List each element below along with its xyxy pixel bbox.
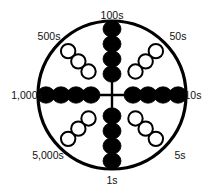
bead-bottom-4 (103, 108, 121, 124)
bead-top-3 (103, 51, 121, 67)
axis-label-lower-right: 5s (174, 149, 185, 161)
bead-top-4 (103, 66, 121, 82)
bead-top-1 (103, 21, 121, 37)
bead-upper-right-3 (128, 64, 142, 78)
axis-label-upper-right: 50s (170, 30, 187, 42)
bead-lower-left-3 (81, 111, 95, 125)
bead-upper-left-3 (81, 64, 95, 78)
axis-label-left: 1,000s (11, 89, 43, 101)
abacus-figure: 100s50s10s5s1s5,000s1,000s500s (0, 0, 213, 190)
bead-lower-right-3 (128, 111, 142, 125)
bead-bottom-3 (103, 123, 121, 139)
bead-top-2 (103, 36, 121, 52)
circular-abacus-diagram: 100s50s10s5s1s5,000s1,000s500s (0, 0, 213, 190)
bead-bottom-1 (103, 153, 121, 169)
axis-label-upper-left: 500s (38, 30, 61, 42)
axis-label-right: 10s (185, 89, 202, 101)
axis-label-lower-left: 5,000s (32, 149, 64, 161)
bead-left-4 (82, 87, 100, 103)
axis-label-top: 100s (101, 9, 124, 21)
axis-label-bottom: 1s (106, 174, 117, 186)
bead-bottom-2 (103, 138, 121, 154)
bead-right-4 (124, 87, 142, 103)
